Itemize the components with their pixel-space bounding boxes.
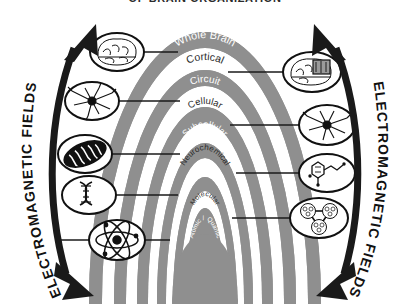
icon-frame <box>299 154 355 192</box>
icon-frame <box>62 176 116 214</box>
icon-node-brain[interactable] <box>90 33 144 71</box>
cortical-brain-icon <box>291 59 331 85</box>
icon-node-neurotransmitter[interactable] <box>299 154 355 192</box>
brain-icon <box>98 39 136 65</box>
icon-node-molecule-cluster[interactable] <box>290 198 348 238</box>
brain-organization-diagram: Whole Brain Cortical Circuit Cellular Su… <box>0 0 410 304</box>
icon-node-dna[interactable] <box>62 176 116 214</box>
icon-node-cortical-brain[interactable] <box>283 52 341 92</box>
figure-title-clip: OF BRAIN ORGANIZATION <box>0 0 410 6</box>
icon-node-neuron-right[interactable] <box>299 105 355 145</box>
icon-node-mitochondrion[interactable] <box>58 135 112 173</box>
icon-node-neuron-left[interactable] <box>65 82 119 120</box>
diagram-canvas: Whole Brain Cortical Circuit Cellular Su… <box>0 0 410 304</box>
page-title: OF BRAIN ORGANIZATION <box>0 0 410 4</box>
